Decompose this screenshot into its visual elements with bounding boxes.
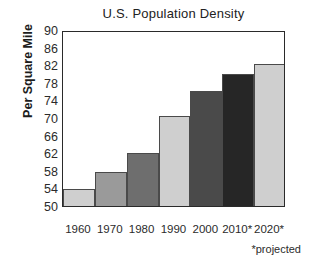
- x-tick-label: 1960: [62, 222, 94, 236]
- y-tick-label: 82: [30, 60, 58, 72]
- y-tick-label: 58: [30, 166, 58, 178]
- bar-2000: [190, 91, 222, 206]
- plot-area: [62, 31, 285, 207]
- y-tick-label: 66: [30, 131, 58, 143]
- footnote-projected: *projected: [251, 243, 301, 255]
- x-axis-tick-labels: 196019701980199020002010*2020*: [62, 222, 285, 238]
- y-axis-tick-labels: 5054586266707478828690: [30, 31, 58, 207]
- y-tick-label: 86: [30, 43, 58, 55]
- x-tick-label: 1990: [158, 222, 190, 236]
- bar-1960: [63, 189, 95, 206]
- y-tick-label: 70: [30, 113, 58, 125]
- chart-title: U.S. Population Density: [62, 6, 285, 21]
- bars-layer: [63, 32, 284, 206]
- x-tick-label: 1980: [126, 222, 158, 236]
- bar-1980: [127, 153, 159, 206]
- y-tick-label: 90: [30, 25, 58, 37]
- x-tick-label: 2000: [189, 222, 221, 236]
- y-tick-label: 50: [30, 201, 58, 213]
- x-tick-label: 2010*: [221, 222, 253, 236]
- y-tick-label: 54: [30, 183, 58, 195]
- x-tick-label: 1970: [94, 222, 126, 236]
- y-tick-label: 74: [30, 95, 58, 107]
- bar-1970: [95, 172, 127, 206]
- bar-2010: [222, 74, 254, 206]
- y-tick-label: 78: [30, 78, 58, 90]
- bar-1990: [159, 116, 191, 206]
- bar-2020: [254, 64, 285, 206]
- y-tick-label: 62: [30, 148, 58, 160]
- population-density-bar-chart: U.S. Population Density Per Square Mile …: [0, 0, 309, 262]
- x-tick-label: 2020*: [253, 222, 285, 236]
